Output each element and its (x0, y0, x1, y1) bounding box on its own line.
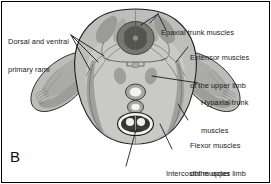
spinal-cord (117, 22, 154, 55)
label-intercostal-muscles: Intercostal muscles (166, 151, 230, 184)
label-line: Hypaxial trunk (201, 98, 249, 107)
label-line: Flexor muscles (190, 141, 246, 150)
gut-tube (128, 101, 144, 114)
dorsal-aorta (126, 84, 146, 100)
label-heart: Heart (123, 168, 141, 184)
label-line: primary rami (8, 65, 69, 74)
anatomy-figure-panel-b: Dorsal and ventral primary rami Epaxial … (0, 0, 271, 184)
label-dorsal-ventral-primary-rami: Dorsal and ventral primary rami (8, 19, 69, 93)
label-line: Intercostal muscles (166, 169, 230, 178)
label-line: Dorsal and ventral (8, 37, 69, 46)
label-line: Extensor muscles (190, 53, 249, 62)
panel-letter: B (10, 148, 20, 165)
